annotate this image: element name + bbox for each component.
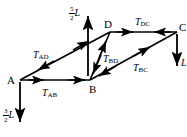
member-label-BC: TBC	[133, 63, 148, 74]
node-label-B: B	[89, 84, 96, 95]
member-label-DC: TDC	[135, 17, 150, 28]
node-label-C: C	[179, 22, 186, 33]
node-label-A: A	[7, 75, 15, 86]
member-label-AD: TAD	[33, 50, 49, 61]
load-label-at-B: 52L	[69, 6, 80, 22]
member-label-BD: TBD	[103, 54, 118, 65]
arrow-AD-toward-A	[38, 61, 54, 70]
arrow-BD-toward-B	[93, 55, 101, 74]
arrow-BC-toward-B	[99, 66, 116, 76]
member-label-AB: TAB	[42, 88, 57, 99]
arrow-AD-toward-D	[73, 41, 89, 50]
node-label-D: D	[104, 19, 112, 30]
force-diagram: A B D C TAD TAB TBD TBC TDC 52L 32L L	[0, 0, 187, 137]
diagram-canvas	[0, 0, 187, 137]
load-label-at-A: 32L	[3, 108, 14, 124]
load-label-at-C: L	[181, 58, 187, 68]
arrow-BC-toward-C	[132, 47, 150, 57]
